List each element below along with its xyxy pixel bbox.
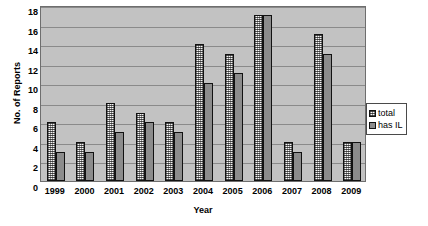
bar-group (337, 7, 367, 181)
bar-group (160, 7, 190, 181)
x-axis-tick-label: 2002 (134, 186, 154, 196)
bar (85, 152, 94, 181)
bar-group (248, 7, 278, 181)
y-axis-tick-label: 18 (28, 8, 38, 17)
bar (254, 15, 263, 181)
y-axis-tick-label: 4 (33, 144, 38, 153)
x-axis-tick-label: 2003 (163, 186, 183, 196)
bar (323, 54, 332, 181)
bar (284, 142, 293, 181)
bar (234, 73, 243, 181)
legend-item[interactable]: total (369, 107, 403, 119)
bar (263, 15, 272, 181)
bar-group (130, 7, 160, 181)
x-axis-title: Year (40, 205, 366, 215)
bar (174, 132, 183, 181)
legend-item[interactable]: has IL (369, 119, 403, 131)
legend-swatch-icon (369, 110, 376, 117)
legend-item-label: has IL (378, 121, 403, 130)
bar (145, 122, 154, 181)
bar (204, 83, 213, 181)
bar (136, 113, 145, 181)
bar-group (71, 7, 101, 181)
bar-group (308, 7, 338, 181)
bar (293, 152, 302, 181)
y-axis-tick-label: 2 (33, 164, 38, 173)
bar-groups (41, 7, 365, 181)
x-axis-tick-label: 2005 (223, 186, 243, 196)
bar (343, 142, 352, 181)
chart-legend: totalhas IL (366, 103, 407, 135)
bar (352, 142, 361, 181)
bar-group (41, 7, 71, 181)
bar (56, 152, 65, 181)
bar-group (278, 7, 308, 181)
bar (165, 122, 174, 181)
bar-group (100, 7, 130, 181)
y-axis-tick-label: 10 (28, 86, 38, 95)
bar-chart: No. of Reports 181614121086420 199920002… (0, 0, 428, 226)
bar (106, 103, 115, 181)
x-axis-tick-label: 2007 (282, 186, 302, 196)
bar (314, 34, 323, 181)
y-axis-tick-label: 12 (28, 66, 38, 75)
x-axis-tick-labels: 1999200020012002200320042005200620072008… (40, 186, 366, 200)
x-axis-tick-label: 2004 (193, 186, 213, 196)
x-axis-tick-label: 1999 (45, 186, 65, 196)
y-axis-tick-label: 14 (28, 47, 38, 56)
bar (225, 54, 234, 181)
bar-group (219, 7, 249, 181)
bar (195, 44, 204, 181)
bar (47, 122, 56, 181)
y-axis-tick-label: 0 (33, 184, 38, 193)
bar (115, 132, 124, 181)
y-axis-tick-label: 6 (33, 125, 38, 134)
bar (76, 142, 85, 181)
x-axis-tick-label: 2009 (341, 186, 361, 196)
y-axis-tick-label: 16 (28, 27, 38, 36)
x-axis-tick-label: 2000 (74, 186, 94, 196)
legend-item-label: total (378, 109, 395, 118)
x-axis-tick-label: 2001 (104, 186, 124, 196)
x-axis-tick-label: 2008 (312, 186, 332, 196)
x-axis-tick-label: 2006 (252, 186, 272, 196)
y-axis-tick-labels: 181614121086420 (14, 6, 38, 182)
y-axis-tick-label: 8 (33, 105, 38, 114)
plot-area (40, 6, 366, 182)
legend-swatch-icon (369, 122, 376, 129)
bar-group (189, 7, 219, 181)
